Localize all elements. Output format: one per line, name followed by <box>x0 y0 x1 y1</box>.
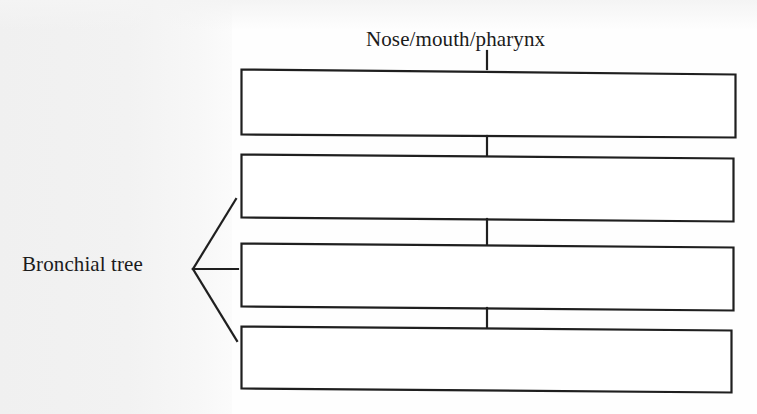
bracket-label-bronchial-tree: Bronchial tree <box>22 251 143 277</box>
box-4[interactable] <box>242 327 732 393</box>
box-2[interactable] <box>242 155 734 222</box>
bracket-upper-branch <box>193 199 236 269</box>
box-3[interactable] <box>242 244 734 311</box>
bracket-lower-branch <box>193 269 237 341</box>
flowchart-graphics <box>0 0 757 414</box>
box-1[interactable] <box>242 70 736 138</box>
top-label-nose-mouth-pharynx: Nose/mouth/pharynx <box>366 26 545 52</box>
figure-canvas: Nose/mouth/pharynx Bronchial tree <box>0 0 757 414</box>
